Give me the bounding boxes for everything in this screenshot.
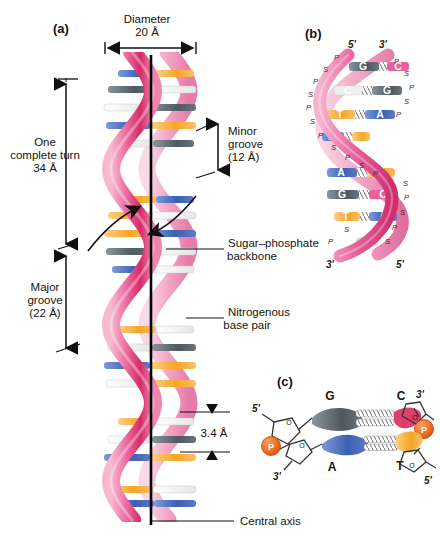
major-groove-line1: Major [31, 281, 60, 293]
panel-b-bottom-right-prime: 5' [396, 259, 405, 270]
svg-text:P: P [394, 57, 399, 66]
svg-text:P: P [396, 110, 401, 119]
svg-text:S: S [403, 179, 408, 188]
panel-c-tag: (c) [277, 374, 293, 389]
rise-label: 3.4 Å [201, 427, 228, 439]
panel-a-tag: (a) [53, 21, 69, 36]
svg-text:O: O [412, 414, 418, 421]
panel-b-top-left-prime: 5' [348, 39, 357, 50]
minor-groove-line3: (12 Å) [228, 151, 259, 163]
svg-text:S: S [331, 143, 336, 152]
svg-text:P: P [313, 77, 318, 86]
panel-c-phosphate-label-right: P [421, 425, 427, 435]
panel-c-bottom-left-prime: 3' [273, 471, 282, 482]
panel-c-bottom-right-prime: 5' [424, 475, 433, 486]
panel-b-bottom-left-prime: 3' [326, 259, 335, 270]
svg-text:S: S [404, 97, 409, 106]
svg-text:S: S [323, 65, 328, 74]
svg-text:P: P [409, 83, 414, 92]
panel-c-adenine-label: A [328, 460, 337, 474]
diameter-label-line2: 20 Å [135, 26, 159, 38]
dna-structure-figure: (a) Diameter 20 Å [0, 0, 440, 544]
major-groove-line2: groove [27, 294, 62, 306]
svg-text:O: O [409, 462, 415, 469]
svg-text:P: P [328, 237, 333, 246]
panel-b-tag: (b) [305, 26, 322, 41]
bp-letter-left: C [344, 84, 352, 96]
central-axis-label: Central axis [240, 515, 301, 527]
turn-label-line1: One [34, 136, 56, 148]
minor-groove-line1: Minor [228, 125, 257, 137]
svg-text:P: P [318, 131, 323, 140]
panel-c-cytosine-label: C [397, 389, 406, 403]
svg-text:S: S [400, 208, 405, 217]
svg-text:P: P [306, 103, 311, 112]
svg-text:S: S [308, 90, 313, 99]
svg-text:S: S [359, 161, 364, 170]
svg-text:P: P [404, 193, 409, 202]
panel-c-top-right-prime: 3' [416, 389, 425, 400]
svg-text:P: P [334, 53, 339, 62]
basepair-label-line1: Nitrogenous [228, 306, 290, 318]
bp-letter-right: G [383, 84, 391, 96]
svg-text:O: O [299, 442, 305, 449]
bp-letter-left: A [337, 166, 345, 178]
panel-b-top-right-prime: 3' [379, 39, 388, 50]
panel-c-phosphate-label-left: P [268, 442, 274, 452]
backbone-label-line2: backbone [227, 250, 277, 262]
svg-text:S: S [404, 69, 409, 78]
bp-letter-left: T [337, 108, 344, 120]
turn-label-line2: complete turn [10, 149, 80, 161]
svg-text:P: P [392, 223, 397, 232]
svg-text:S: S [385, 237, 390, 246]
svg-text:P: P [373, 169, 378, 178]
turn-label-line3: 34 Å [33, 162, 57, 174]
basepair-label-line2: base pair [223, 319, 270, 331]
diameter-label-line1: Diameter [124, 13, 171, 25]
svg-text:P: P [345, 153, 350, 162]
minor-groove-line2: groove [228, 138, 263, 150]
bp-letter-left: G [338, 188, 346, 200]
bp-letter-right: A [376, 108, 384, 120]
bp-letter-left: T [343, 210, 350, 222]
panel-c-top-left-prime: 5' [252, 403, 261, 414]
svg-text:S: S [344, 225, 349, 234]
panel-c-guanine-label: G [325, 389, 334, 403]
sugar-oxygen-label: O [286, 419, 292, 426]
figure-canvas: (a) Diameter 20 Å [0, 0, 440, 544]
bp-letter-left: G [359, 60, 367, 72]
svg-text:S: S [310, 117, 315, 126]
major-groove-line3: (22 Å) [29, 307, 60, 319]
backbone-label-line1: Sugar–phosphate [228, 237, 319, 249]
